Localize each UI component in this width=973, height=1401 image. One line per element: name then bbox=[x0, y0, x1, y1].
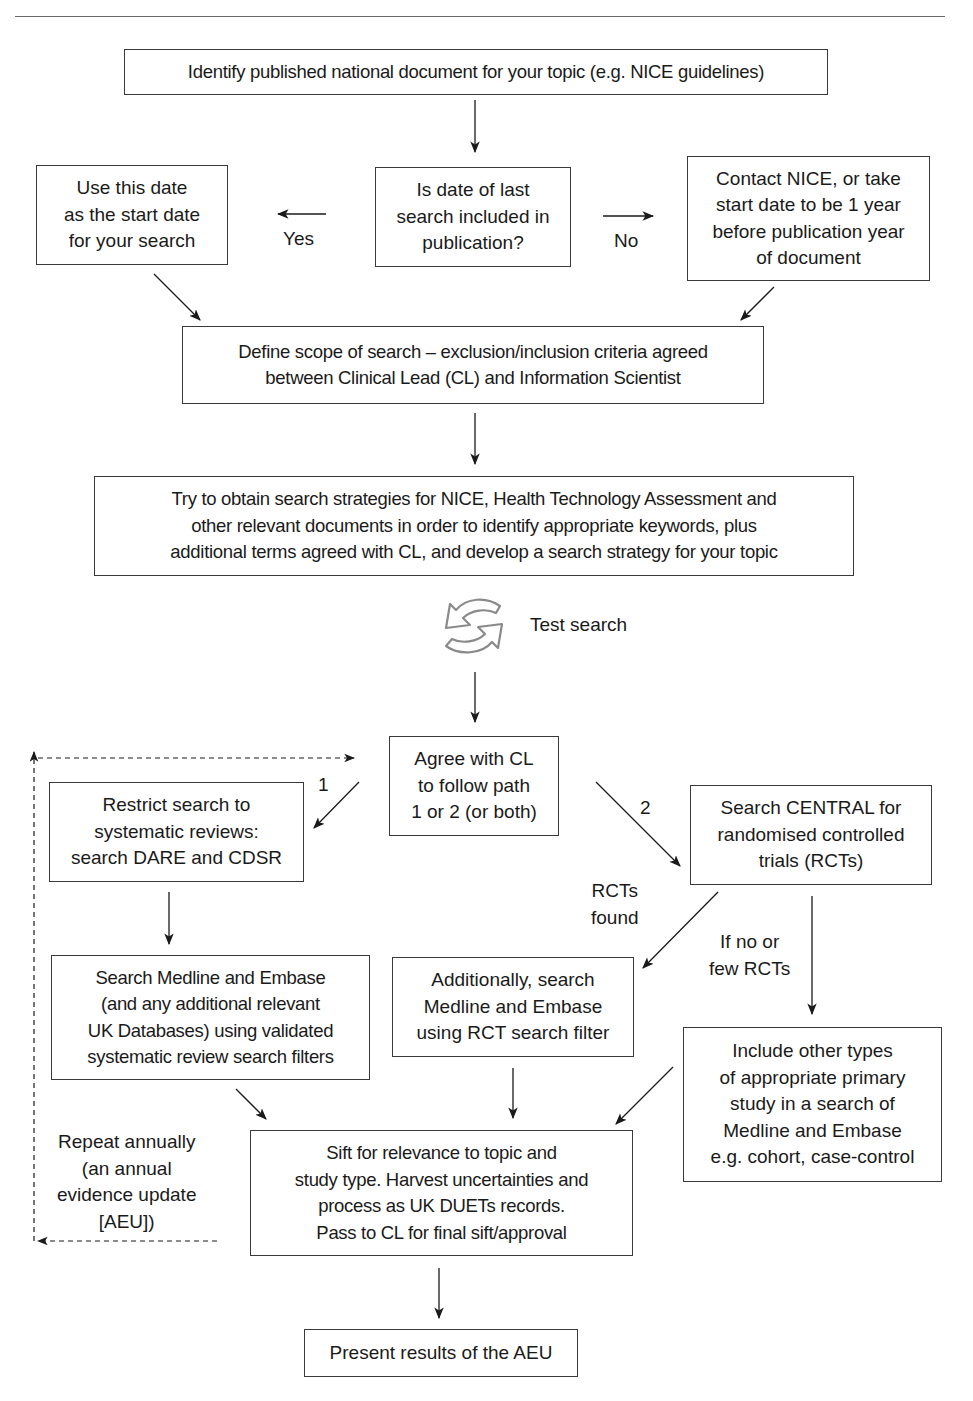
node-text: Is date of last search included in publi… bbox=[396, 177, 549, 257]
edge-label-repeat-annually: Repeat annually (an annual evidence upda… bbox=[57, 1129, 196, 1235]
node-decision-date-included: Is date of last search included in publi… bbox=[375, 167, 571, 267]
node-search-central: Search CENTRAL for randomised controlled… bbox=[690, 785, 932, 885]
node-text: Include other types of appropriate prima… bbox=[711, 1038, 915, 1171]
node-include-other-types: Include other types of appropriate prima… bbox=[683, 1027, 942, 1182]
node-text: Sift for relevance to topic and study ty… bbox=[295, 1140, 588, 1246]
node-contact-nice: Contact NICE, or take start date to be 1… bbox=[687, 156, 930, 281]
node-text: Try to obtain search strategies for NICE… bbox=[170, 486, 777, 566]
node-text: Present results of the AEU bbox=[330, 1340, 553, 1367]
node-obtain-strategies: Try to obtain search strategies for NICE… bbox=[94, 476, 854, 576]
edge-label-yes: Yes bbox=[283, 226, 314, 253]
node-agree-with-cl: Agree with CL to follow path 1 or 2 (or … bbox=[389, 736, 559, 836]
arrow-include-to-sift bbox=[616, 1067, 673, 1124]
node-additionally-search: Additionally, search Medline and Embase … bbox=[392, 957, 634, 1057]
node-sift-relevance: Sift for relevance to topic and study ty… bbox=[250, 1130, 633, 1256]
refresh-cycle-icon bbox=[446, 600, 502, 653]
edge-label-path-2: 2 bbox=[640, 795, 651, 822]
edge-label-path-1: 1 bbox=[318, 772, 329, 799]
node-text: Define scope of search – exclusion/inclu… bbox=[238, 339, 707, 392]
edge-label-rcts-found: RCTs found bbox=[591, 878, 639, 931]
node-text: Contact NICE, or take start date to be 1… bbox=[712, 166, 904, 272]
node-text: Search CENTRAL for randomised controlled… bbox=[718, 795, 905, 875]
node-search-medline-sr: Search Medline and Embase (and any addit… bbox=[51, 955, 370, 1080]
node-identify-document: Identify published national document for… bbox=[124, 49, 828, 95]
test-search-label: Test search bbox=[530, 612, 627, 639]
node-text: Identify published national document for… bbox=[188, 59, 764, 86]
edge-label-no: No bbox=[614, 228, 638, 255]
node-define-scope: Define scope of search – exclusion/inclu… bbox=[182, 326, 764, 404]
edge-label-no-few-rcts: If no or few RCTs bbox=[709, 929, 790, 982]
arrow-rcts-found bbox=[643, 892, 718, 968]
node-text: Search Medline and Embase (and any addit… bbox=[87, 965, 333, 1071]
arrow-medline-to-sift bbox=[236, 1089, 266, 1119]
arrow-contact-to-scope bbox=[741, 287, 774, 320]
arrow-usedate-to-scope bbox=[154, 274, 200, 320]
arrow-path-2 bbox=[596, 782, 680, 866]
node-use-this-date: Use this date as the start date for your… bbox=[36, 165, 228, 265]
node-restrict-search: Restrict search to systematic reviews: s… bbox=[49, 782, 304, 882]
node-text: Agree with CL to follow path 1 or 2 (or … bbox=[411, 746, 537, 826]
node-text: Additionally, search Medline and Embase … bbox=[417, 967, 610, 1047]
node-text: Use this date as the start date for your… bbox=[64, 175, 200, 255]
node-text: Restrict search to systematic reviews: s… bbox=[71, 792, 282, 872]
node-present-results: Present results of the AEU bbox=[304, 1329, 578, 1377]
